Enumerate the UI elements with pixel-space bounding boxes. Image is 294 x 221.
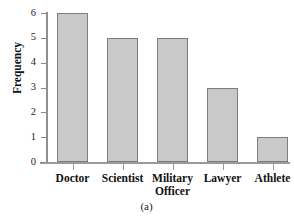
bar-chart-plot-area: Frequency 0123456 DoctorScientistMilitar…: [0, 0, 293, 221]
figure-container: Frequency 0123456 DoctorScientistMilitar…: [0, 0, 293, 221]
bar: [157, 38, 188, 162]
x-axis-tick-mark: [123, 163, 124, 170]
y-axis-tick-label: 0: [24, 157, 36, 168]
y-axis-label: Frequency: [11, 28, 23, 108]
y-axis-tick-mark: [41, 13, 46, 14]
x-axis-category-label: Athlete: [243, 172, 294, 185]
x-axis-line: [40, 162, 290, 164]
y-axis-tick-mark: [41, 137, 46, 138]
y-axis-tick-mark: [41, 112, 46, 113]
y-axis-tick-mark: [41, 63, 46, 64]
figure-caption: (a): [0, 200, 293, 212]
bar: [257, 137, 288, 162]
y-axis-line: [46, 12, 48, 163]
y-axis-tick-label: 2: [24, 107, 36, 118]
y-axis-tick-label: 6: [24, 8, 36, 19]
y-axis-tick-mark: [41, 38, 46, 39]
y-axis-tick-label: 1: [24, 132, 36, 143]
y-axis-tick-labels: 0123456: [24, 0, 36, 221]
x-axis-tick-mark: [273, 163, 274, 170]
x-axis-tick-mark: [173, 163, 174, 170]
y-axis-tick-mark: [41, 162, 46, 163]
x-axis-tick-mark: [223, 163, 224, 170]
y-axis-tick-label: 3: [24, 82, 36, 93]
bar: [57, 13, 88, 162]
y-axis-tick-mark: [41, 88, 46, 89]
x-axis-tick-mark: [73, 163, 74, 170]
bar: [107, 38, 138, 162]
y-axis-tick-label: 5: [24, 32, 36, 43]
y-axis-tick-label: 4: [24, 57, 36, 68]
bar: [207, 88, 238, 163]
